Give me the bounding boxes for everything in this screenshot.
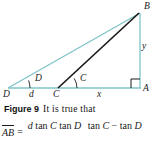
triangle-diagram-svg xyxy=(0,0,158,104)
math-token: D xyxy=(71,120,81,131)
math-token: tan xyxy=(88,120,100,131)
vertex-label-C: C xyxy=(53,90,59,100)
math-token: C xyxy=(100,120,109,131)
vertex-label-D: D xyxy=(3,90,10,100)
figure-caption: Figure 9It is true that xyxy=(4,104,158,115)
equals-sign: = xyxy=(17,126,23,137)
math-token: D xyxy=(132,120,142,131)
side-label-y: y xyxy=(142,42,146,52)
math-token: − xyxy=(109,120,117,131)
angle-arc-D xyxy=(29,81,30,89)
math-token: C xyxy=(48,120,57,131)
math-token: tan xyxy=(33,120,48,131)
geometry-diagram: B A D C d x y D C xyxy=(0,0,158,104)
side-label-x: x xyxy=(97,90,101,100)
line-D-to-B xyxy=(8,13,140,88)
math-token: tan xyxy=(57,120,72,131)
fraction-denominator: tan C − tan D xyxy=(86,120,144,131)
line-C-to-B xyxy=(58,13,139,88)
figure-number-label: Figure 9 xyxy=(4,104,39,114)
fraction: d tan C tan D tan C − tan D xyxy=(26,120,144,132)
caption-line: Figure 9It is true that xyxy=(4,104,158,115)
math-token: tan xyxy=(117,120,132,131)
right-angle-marker xyxy=(131,79,140,88)
equation: AB = d tan C tan D tan C − tan D xyxy=(2,120,144,138)
angle-arc-C xyxy=(74,78,77,88)
angle-label-C: C xyxy=(80,74,86,84)
figure-container: B A D C d x y D C Figure 9It is true tha… xyxy=(0,0,158,147)
vertex-label-A: A xyxy=(143,84,149,94)
equation-left-side: AB xyxy=(2,125,14,138)
angle-label-D: D xyxy=(35,74,42,84)
vertex-label-B: B xyxy=(144,2,150,12)
fraction-numerator: d tan C tan D xyxy=(26,120,83,131)
side-label-d: d xyxy=(29,90,34,100)
caption-sentence: It is true that xyxy=(43,104,96,114)
